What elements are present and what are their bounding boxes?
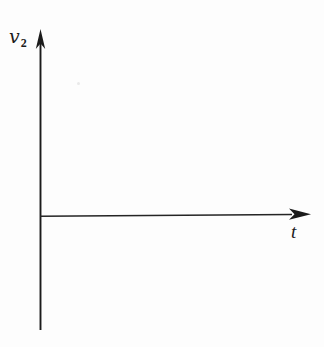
y-axis-label: v2 (9, 27, 26, 46)
scan-speck-artifact (77, 82, 80, 85)
figure-canvas: v2 t (0, 0, 324, 347)
y-axis-symbol: v (9, 25, 20, 47)
coordinate-axes-drawing (0, 0, 324, 347)
x-axis-line (40, 214, 292, 216)
y-axis-subscript: 2 (21, 36, 27, 50)
x-axis-arrowhead (289, 209, 311, 220)
x-axis-label: t (291, 222, 296, 241)
